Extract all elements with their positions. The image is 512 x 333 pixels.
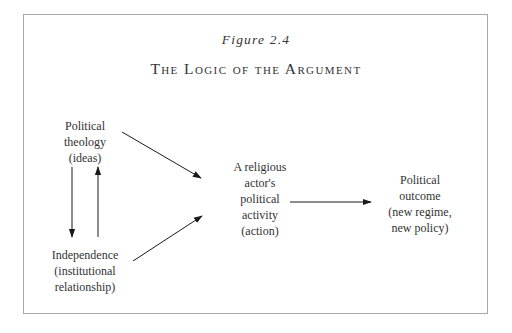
arrows-layer [0,0,512,333]
arrow-ideas-to-action [122,132,201,178]
arrow-independence-to-action [133,216,202,261]
